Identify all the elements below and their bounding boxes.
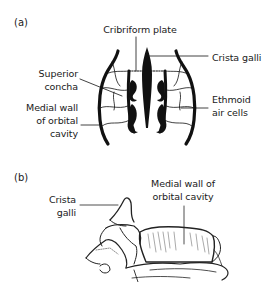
superior-concha-left — [129, 80, 137, 102]
ethmoid-illustration — [0, 0, 280, 282]
crista-galli-shape — [142, 47, 152, 128]
ethmoid-lateral-drawing — [80, 198, 228, 282]
superior-concha-right — [157, 80, 165, 102]
